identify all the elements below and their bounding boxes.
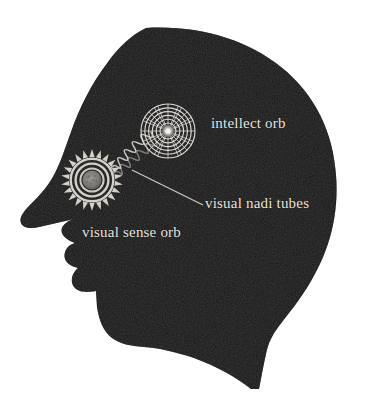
label-visual-sense-orb: visual sense orb — [82, 225, 181, 240]
label-visual-nadi-tubes: visual nadi tubes — [205, 196, 309, 211]
intellect-orb — [141, 104, 195, 158]
diagram-canvas: intellect orb visual nadi tubes visual s… — [0, 0, 380, 416]
head-profile-figure — [0, 0, 380, 416]
label-intellect-orb: intellect orb — [211, 116, 286, 131]
